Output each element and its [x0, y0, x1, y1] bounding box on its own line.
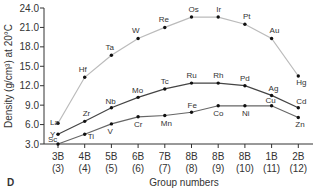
x-tick-label-group: 6B: [132, 151, 145, 162]
element-label: Zn: [295, 120, 304, 129]
data-point: [270, 37, 273, 40]
element-label: Sc: [48, 135, 57, 144]
series-line: [58, 83, 298, 134]
x-tick-label-group: 8B: [239, 151, 252, 162]
chart-canvas: 3.06.09.012.015.018.021.024.03B(3)4B(4)5…: [0, 0, 313, 191]
x-tick-label-number: (11): [263, 163, 280, 174]
x-tick-label-number: (12): [289, 163, 307, 174]
x-tick-label-number: (5): [105, 163, 117, 174]
y-tick-label: 9.0: [25, 100, 39, 111]
element-label: Fe: [188, 101, 198, 110]
element-label: Pd: [240, 74, 250, 83]
element-label: Ir: [216, 5, 221, 14]
density-chart: 3.06.09.012.015.018.021.024.03B(3)4B(4)5…: [0, 0, 313, 191]
data-point: [83, 120, 86, 123]
x-tick-label-group: 8B: [212, 151, 225, 162]
element-label: Co: [213, 109, 224, 118]
x-tick-label-group: 3B: [52, 151, 65, 162]
element-label: Ru: [187, 71, 197, 80]
x-tick-label-group: 5B: [105, 151, 118, 162]
data-point: [297, 116, 300, 119]
data-point: [190, 15, 193, 18]
element-label: Pt: [243, 12, 251, 21]
data-point: [190, 81, 193, 84]
element-label: Ni: [242, 109, 250, 118]
data-point: [136, 115, 139, 118]
y-tick-label: 21.0: [20, 22, 40, 33]
data-point: [83, 76, 86, 79]
y-tick-label: 12.0: [20, 80, 40, 91]
x-tick-label-number: (3): [52, 163, 64, 174]
data-point: [136, 96, 139, 99]
y-tick-label: 3.0: [25, 139, 39, 150]
x-tick-label-group: 4B: [79, 151, 92, 162]
x-tick-label-number: (6): [132, 163, 144, 174]
data-point: [163, 26, 166, 29]
element-label: Re: [159, 15, 170, 24]
data-point: [243, 22, 246, 25]
series-line: [58, 17, 298, 123]
data-point: [297, 106, 300, 109]
x-tick-label-number: (7): [159, 163, 171, 174]
data-point: [110, 122, 113, 125]
data-point: [243, 84, 246, 87]
data-point: [217, 81, 220, 84]
panel-label: D: [7, 177, 14, 188]
element-label: Hf: [79, 65, 88, 74]
element-label: Zr: [83, 109, 91, 118]
data-point: [163, 114, 166, 117]
data-point: [243, 104, 246, 107]
data-point: [136, 37, 139, 40]
element-label: Os: [189, 5, 199, 14]
data-point: [163, 87, 166, 90]
element-label: Ti: [88, 132, 95, 141]
x-tick-label-group: 8B: [185, 151, 198, 162]
x-tick-label-number: (9): [212, 163, 224, 174]
y-tick-label: 15.0: [20, 61, 40, 72]
element-label: Cd: [296, 97, 306, 106]
element-label: Cr: [134, 120, 143, 129]
x-axis-label: Group numbers: [149, 177, 218, 188]
data-point: [190, 111, 193, 114]
x-tick-label-number: (8): [185, 163, 197, 174]
element-label: Mn: [161, 119, 172, 128]
x-tick-label-number: (10): [236, 163, 254, 174]
x-tick-label-number: (4): [79, 163, 91, 174]
y-axis-label: Density (g/cm³) at 20°C: [3, 24, 14, 128]
element-label: Nb: [105, 97, 116, 106]
data-point: [217, 104, 220, 107]
data-point: [110, 54, 113, 57]
data-point: [217, 15, 220, 18]
element-label: Mo: [132, 86, 144, 95]
element-label: V: [107, 127, 113, 136]
element-label: Au: [270, 26, 280, 35]
element-label: Ag: [269, 84, 279, 93]
x-tick-label-group: 7B: [159, 151, 172, 162]
data-point: [83, 133, 86, 136]
x-tick-label-group: 1B: [265, 151, 278, 162]
element-label: Ta: [105, 43, 114, 52]
element-label: W: [132, 26, 140, 35]
element-label: Cu: [266, 96, 276, 105]
element-label: Rh: [213, 71, 223, 80]
element-label: La: [50, 118, 59, 127]
y-tick-label: 18.0: [20, 41, 40, 52]
element-label: Hg: [296, 78, 306, 87]
y-tick-label: 24.0: [20, 3, 40, 14]
data-point: [110, 106, 113, 109]
element-label: Tc: [161, 77, 169, 86]
y-tick-label: 6.0: [25, 119, 39, 130]
x-tick-label-group: 2B: [292, 151, 305, 162]
